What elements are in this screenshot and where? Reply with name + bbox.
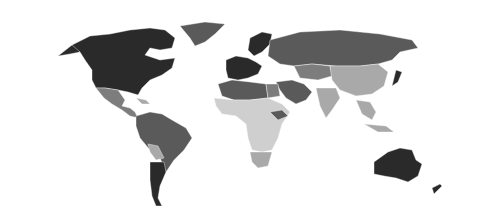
region-egypt [266,84,280,98]
region-caribbean [136,98,150,104]
region-north-america [72,28,175,95]
map-canvas [0,0,500,221]
region-south-africa [250,152,272,168]
region-southeast-asia [356,100,394,132]
region-middle-east [276,80,312,104]
region-new-zealand [432,184,442,194]
region-north-africa [218,80,268,100]
region-india [316,88,340,118]
region-greenland [180,22,225,46]
region-western-europe [226,56,262,80]
region-australia [374,148,422,182]
region-argentina-chile [150,162,166,206]
region-central-asia [294,64,332,80]
region-sub-saharan-africa [214,98,290,152]
world-choropleth-map [0,0,500,221]
region-japan [392,70,402,86]
region-china [330,64,388,96]
region-russia [268,30,418,66]
